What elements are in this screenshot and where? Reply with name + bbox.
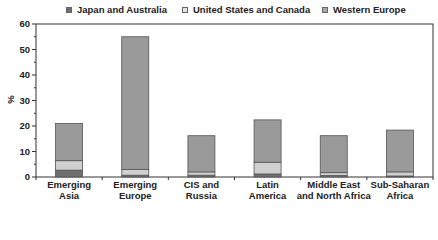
bar-segment	[320, 136, 347, 173]
bar-segment	[122, 37, 149, 170]
bar-segment	[386, 172, 413, 176]
bar-segment	[254, 120, 281, 162]
bar-segment	[188, 172, 215, 175]
plot-frame	[36, 24, 433, 177]
bar-segment	[56, 123, 83, 160]
bar-segment	[320, 173, 347, 176]
bar-segment	[56, 170, 83, 177]
bar-segment	[386, 130, 413, 172]
bar-segment	[56, 161, 83, 170]
bar-segment	[188, 136, 215, 172]
bar-segment	[122, 169, 149, 175]
bar-segment	[254, 174, 281, 177]
x-category-label: Sub-SaharanAfrica	[360, 180, 438, 201]
bar-segment	[254, 162, 281, 174]
